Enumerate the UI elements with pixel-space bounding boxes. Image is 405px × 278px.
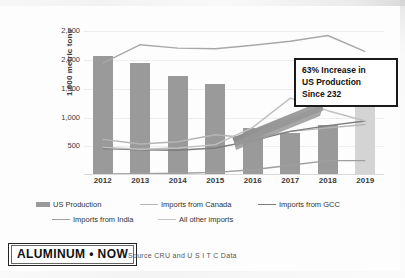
annotation-line-1: 63% Increase in	[302, 64, 391, 76]
legend-item-all-other-imports[interactable]: All other imports	[158, 215, 233, 224]
legend-label: Imports from Canada	[161, 200, 231, 209]
aluminum-now-logo-text: ALUMINUM • NOW	[11, 245, 134, 264]
annotation-line-2: US Production	[302, 76, 391, 88]
annotation-line-3: Since 232	[302, 88, 391, 100]
scan-artifact-bottom	[0, 271, 405, 278]
y-tick-2000: 2,000	[36, 56, 80, 64]
legend-swatch-icon	[258, 204, 276, 205]
legend-item-us-production[interactable]: US Production	[36, 200, 101, 209]
legend-item-imports-from-gcc[interactable]: Imports from GCC	[258, 200, 340, 209]
legend-label: All other imports	[179, 215, 233, 224]
legend-label: Imports from GCC	[279, 200, 340, 209]
legend-swatch-icon	[36, 202, 50, 207]
aluminum-now-logo: ALUMINUM • NOW	[8, 243, 137, 266]
legend-swatch-icon	[158, 219, 176, 220]
annotation-callout: 63% Increase in US Production Since 232	[294, 58, 398, 107]
y-axis-tick-labels: 5001,0001,5002,0002,500	[36, 0, 80, 200]
source-note: Source CRU and U S I T C Data	[128, 252, 237, 259]
legend-item-imports-from-canada[interactable]: Imports from Canada	[140, 200, 231, 209]
legend-swatch-icon	[140, 204, 158, 205]
chart-legend: US ProductionImports from CanadaImports …	[0, 198, 405, 234]
y-tick-1500: 1,500	[36, 85, 80, 93]
legend-item-imports-from-india[interactable]: Imports from India	[52, 215, 133, 224]
y-tick-2500: 2,500	[36, 27, 80, 35]
legend-label: Imports from India	[73, 215, 133, 224]
y-tick-500: 500	[36, 142, 80, 150]
y-tick-1000: 1,000	[36, 114, 80, 122]
legend-label: US Production	[53, 200, 101, 209]
legend-swatch-icon	[52, 219, 70, 220]
